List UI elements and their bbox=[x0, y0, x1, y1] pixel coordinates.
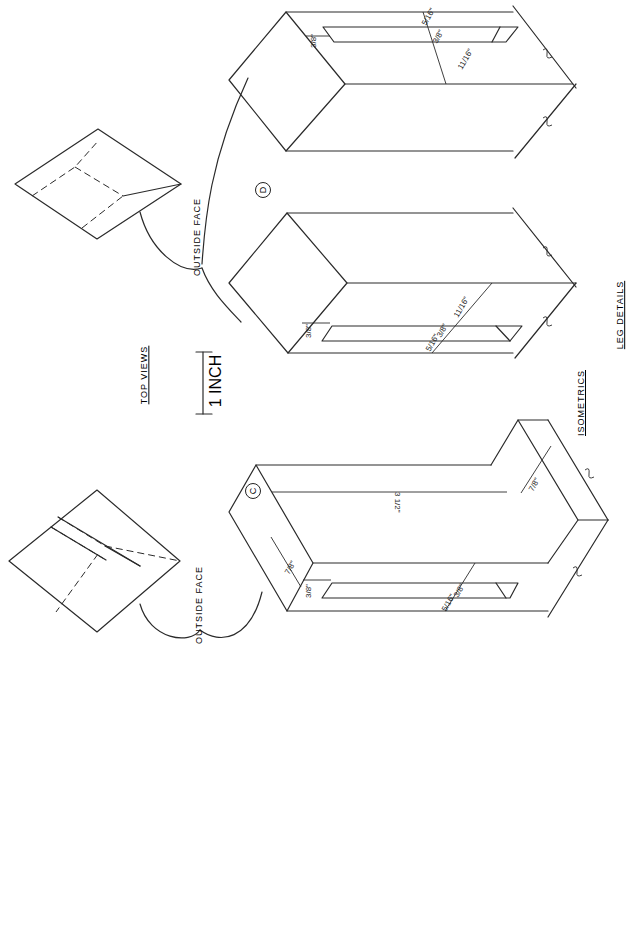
dim-c-e: 3 1/2" bbox=[393, 492, 402, 513]
dim-d-lower-a: 3/8" bbox=[304, 324, 313, 338]
technical-drawing: 3/8" 3/8" 5/16" 11/16" 3/8" 5/16" 3/8" 1… bbox=[0, 0, 628, 949]
dim-d-upper-a: 3/8" bbox=[309, 34, 318, 48]
dim-c-b: 3/8" bbox=[304, 584, 313, 598]
